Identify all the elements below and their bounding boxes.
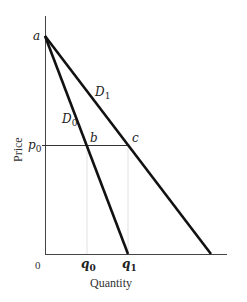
d1-label: D1 [94,85,110,101]
y-axis-label: Price [11,137,25,162]
q0-label: q0 [81,257,96,273]
point-a-label: a [33,29,40,43]
demand-diagram: a b c D1 D0 p0 0 q0 q1 Quantity Price [0,0,247,302]
point-b-label: b [90,131,98,145]
point-c-label: c [132,131,139,145]
x-axis-label: Quantity [90,276,132,290]
q1-label: q1 [122,257,137,273]
origin-label: 0 [35,259,41,271]
p0-label: p0 [28,138,42,154]
